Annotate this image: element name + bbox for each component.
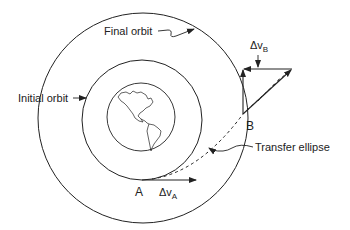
transfer-ellipse-label: Transfer ellipse — [255, 141, 330, 153]
delta-v-a-label: ΔvA — [159, 186, 178, 201]
transfer-ellipse-leader — [209, 145, 253, 151]
delta-v-b-label: ΔvB — [250, 39, 268, 54]
point-b-label: B — [246, 119, 254, 133]
hohmann-transfer-diagram: Final orbit Initial orbit Transfer ellip… — [0, 0, 350, 230]
initial-orbit-label: Initial orbit — [18, 92, 68, 104]
point-a-label: A — [135, 185, 143, 199]
transfer-velocity-arrow — [243, 70, 291, 114]
transfer-ellipse-path — [152, 70, 290, 179]
earth-globe-icon — [107, 83, 175, 151]
final-orbit-label: Final orbit — [104, 25, 152, 37]
final-orbit-leader — [158, 29, 194, 37]
